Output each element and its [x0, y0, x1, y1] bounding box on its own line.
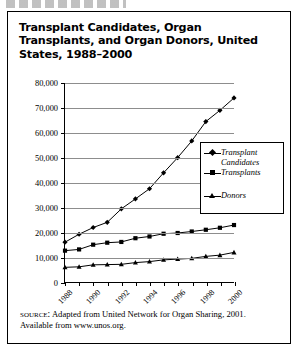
data-point-marker [91, 225, 96, 230]
x-axis-label: 1990 [85, 288, 103, 306]
legend-item: Transplants [204, 168, 280, 179]
triangle-marker-icon [204, 191, 221, 202]
chart-area: 010,00020,00030,00040,00050,00060,00070,… [8, 70, 292, 310]
y-axis-tick [61, 108, 65, 109]
source-text: Adapted from United Network for Organ Sh… [20, 309, 246, 330]
legend-item: Transplant Candidates [204, 148, 280, 167]
x-axis-label: 1998 [198, 288, 216, 306]
data-point-marker [147, 234, 151, 238]
data-point-marker [91, 243, 95, 247]
square-marker-icon [204, 168, 221, 179]
x-axis-label: 1992 [113, 288, 131, 306]
x-axis-tick [136, 282, 137, 286]
y-axis-tick [61, 183, 65, 184]
x-axis-label: 2000 [226, 288, 244, 306]
data-point-marker [232, 250, 237, 255]
legend-item-label: Transplant Candidates [221, 148, 259, 167]
x-axis-tick [65, 282, 66, 286]
x-axis-tick [178, 282, 179, 286]
x-axis-tick [93, 282, 94, 286]
gridline [65, 83, 234, 84]
x-axis-tick [108, 282, 109, 286]
data-point-marker [133, 236, 137, 240]
source-note: source: Adapted from United Network for … [20, 309, 278, 331]
source-keyword: source: [20, 309, 50, 319]
x-axis-tick [207, 282, 208, 286]
y-axis-label: 10,000 [35, 254, 58, 263]
y-axis-label: 80,000 [35, 79, 58, 88]
data-point-marker [218, 226, 222, 230]
y-axis-tick [61, 258, 65, 259]
y-axis-tick [61, 133, 65, 134]
data-point-marker [62, 240, 67, 245]
gridline [65, 233, 234, 234]
x-axis-tick [150, 282, 151, 286]
y-axis-label: 70,000 [35, 104, 58, 113]
legend-item-label: Donors [221, 191, 246, 201]
x-axis-label: 1988 [56, 288, 74, 306]
figure-number-label [6, 0, 126, 8]
diamond-marker-icon [204, 148, 221, 159]
gridline [65, 108, 234, 109]
data-point-marker [232, 223, 236, 227]
data-point-marker [105, 241, 109, 245]
y-axis-label: 0 [54, 279, 58, 288]
y-axis-label: 30,000 [35, 204, 58, 213]
data-point-marker [204, 228, 208, 232]
data-point-marker [119, 240, 123, 244]
x-axis-label: 1994 [141, 288, 159, 306]
legend-item: Donors [204, 191, 280, 202]
gridline [65, 133, 234, 134]
y-axis-label: 40,000 [35, 179, 58, 188]
y-axis-tick [61, 158, 65, 159]
data-point-marker [63, 249, 67, 253]
x-axis-tick [79, 282, 80, 286]
x-axis-tick [221, 282, 222, 286]
x-axis-tick [164, 282, 165, 286]
y-axis-label: 60,000 [35, 129, 58, 138]
x-axis-label: 1996 [170, 288, 188, 306]
x-axis-tick [122, 282, 123, 286]
gridline [65, 258, 234, 259]
chart-legend: Transplant Candidates Transplants Donors [200, 142, 284, 214]
y-axis-tick [61, 208, 65, 209]
figure-title: Transplant Candidates, Organ Transplants… [19, 21, 278, 61]
y-axis-tick [61, 83, 65, 84]
legend-item-label: Transplants [221, 168, 261, 178]
figure-container: Transplant Candidates, Organ Transplants… [7, 11, 291, 344]
y-axis-tick [61, 233, 65, 234]
x-axis-tick [193, 282, 194, 286]
y-axis-label: 50,000 [35, 154, 58, 163]
data-point-marker [77, 247, 81, 251]
x-axis-tick [235, 282, 236, 286]
y-axis-label: 20,000 [35, 229, 58, 238]
